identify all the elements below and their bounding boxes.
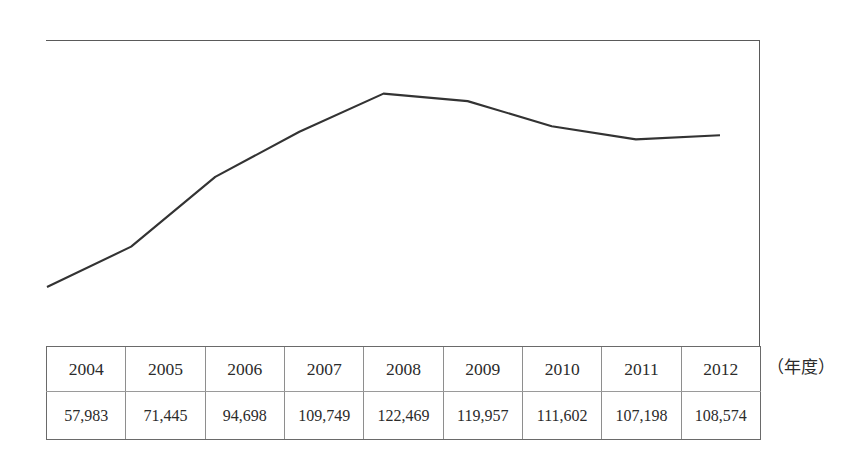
table-cell-year: 2009 [443, 347, 522, 392]
line-chart-figure: 2004 2005 2006 2007 2008 2009 2010 2011 … [0, 0, 862, 476]
data-table: 2004 2005 2006 2007 2008 2009 2010 2011 … [46, 346, 761, 440]
table-cell-year: 2007 [284, 347, 363, 392]
table-cell-value: 111,602 [522, 392, 601, 440]
table-row-values: 57,983 71,445 94,698 109,749 122,469 119… [47, 392, 761, 440]
table-cell-year: 2004 [47, 347, 126, 392]
table-cell-year: 2011 [602, 347, 681, 392]
table-cell-value: 109,749 [284, 392, 363, 440]
table-cell-year: 2008 [364, 347, 443, 392]
table-row-years: 2004 2005 2006 2007 2008 2009 2010 2011 … [47, 347, 761, 392]
series-line-path [47, 94, 720, 287]
table-cell-value: 71,445 [126, 392, 205, 440]
table-cell-year: 2006 [205, 347, 284, 392]
chart-plot-area [46, 40, 760, 346]
chart-series-svg [46, 41, 760, 347]
table-cell-year: 2010 [522, 347, 601, 392]
table-cell-year: 2005 [126, 347, 205, 392]
table-cell-value: 108,574 [681, 392, 760, 440]
table-cell-value: 57,983 [47, 392, 126, 440]
table-cell-year: 2012 [681, 347, 760, 392]
table-cell-value: 94,698 [205, 392, 284, 440]
x-axis-unit-label: （年度） [767, 357, 835, 379]
table-cell-value: 122,469 [364, 392, 443, 440]
table-cell-value: 107,198 [602, 392, 681, 440]
table-cell-value: 119,957 [443, 392, 522, 440]
